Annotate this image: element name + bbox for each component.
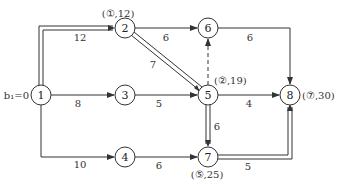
- annotation-node-7: (⑤,25): [191, 169, 224, 180]
- edge-7-8: [218, 104, 293, 159]
- node-6: 6: [198, 18, 218, 38]
- svg-text:3: 3: [122, 89, 129, 102]
- node-5: 5: [198, 85, 218, 105]
- edge-5-7: [205, 105, 211, 147]
- weight-6-8: 6: [247, 32, 253, 43]
- node-3: 3: [115, 85, 135, 105]
- node-7: 7: [198, 147, 218, 167]
- weight-5-8: 4: [246, 98, 252, 109]
- weight-1-4: 10: [74, 159, 87, 170]
- node-1: 1: [31, 85, 51, 105]
- weight-1-3: 8: [75, 98, 81, 109]
- annotation-node-2: (①,12): [102, 8, 135, 19]
- svg-text:5: 5: [205, 89, 212, 102]
- svg-text:4: 4: [122, 151, 129, 164]
- annotation-node-8: (⑦,30): [302, 90, 335, 101]
- svg-text:2: 2: [122, 22, 129, 35]
- svg-text:1: 1: [38, 89, 45, 102]
- svg-text:7: 7: [205, 151, 212, 164]
- weight-5-7: 6: [214, 121, 220, 132]
- node-2: 2: [115, 18, 135, 38]
- weight-2-5: 7: [150, 59, 156, 70]
- start-label: b₁=0: [4, 90, 29, 101]
- weight-4-7: 6: [156, 160, 162, 171]
- svg-text:8: 8: [287, 89, 294, 102]
- node-8: 8: [280, 85, 300, 105]
- network-diagram: 1 2 3 4 5 6 7 8 b₁=0 (①,12) (②,19) (⑤,25…: [0, 0, 340, 185]
- svg-text:6: 6: [205, 22, 212, 35]
- weight-7-8: 5: [245, 161, 251, 172]
- weight-3-5: 5: [156, 98, 162, 109]
- node-4: 4: [115, 147, 135, 167]
- weight-1-2: 12: [74, 32, 87, 43]
- edge-1-4: [41, 105, 114, 157]
- weight-2-6: 6: [163, 32, 169, 43]
- annotation-node-5: (②,19): [214, 75, 247, 86]
